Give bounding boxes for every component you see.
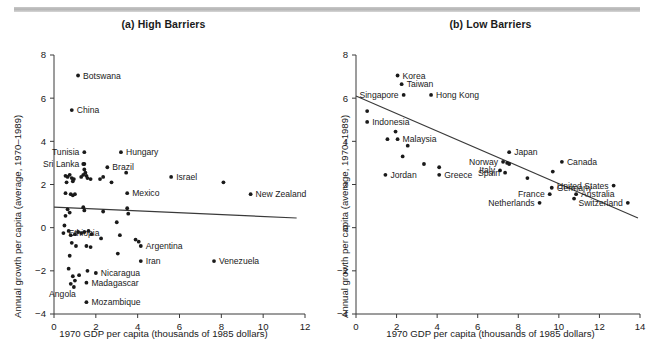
data-point — [70, 241, 74, 245]
x-tick-label: 6 — [475, 321, 480, 332]
data-point — [90, 232, 94, 236]
data-point — [74, 244, 78, 248]
data-point — [81, 162, 85, 166]
data-point — [68, 211, 72, 215]
data-point — [437, 165, 441, 169]
data-point — [69, 282, 73, 286]
data-point — [134, 238, 138, 242]
data-point-label: Jordan — [390, 170, 416, 180]
data-point — [62, 231, 66, 235]
y-tick-label: 6 — [41, 93, 46, 104]
data-point-label: Brazil — [112, 162, 134, 172]
data-point — [71, 274, 75, 278]
data-point — [137, 240, 141, 244]
data-point — [550, 186, 554, 190]
data-point — [73, 232, 77, 236]
data-point-label: Botswana — [83, 71, 121, 81]
data-point-label: Hong Kong — [436, 90, 479, 100]
data-point — [85, 281, 89, 285]
data-point — [365, 109, 369, 113]
data-point-label: Israel — [176, 172, 197, 182]
data-point — [538, 201, 542, 205]
data-point — [81, 205, 85, 209]
data-point — [66, 207, 70, 211]
data-point — [119, 150, 123, 154]
data-point — [76, 74, 80, 78]
data-point — [94, 271, 98, 275]
data-point — [115, 220, 119, 224]
data-point-label: Taiwan — [407, 79, 434, 89]
figure-root: (a) High Barriers Annual growth per capi… — [0, 0, 654, 354]
data-point — [249, 192, 253, 196]
x-tick-label: 6 — [177, 321, 182, 332]
panel-a-plot-area: −4−202468024681012BotswanaChinaTunisiaSr… — [0, 0, 327, 354]
data-point — [126, 212, 130, 216]
data-point-label: Hungary — [126, 147, 159, 157]
data-point — [64, 191, 68, 195]
data-point — [574, 192, 578, 196]
y-tick-label: 8 — [343, 49, 348, 60]
data-point — [437, 173, 441, 177]
y-tick-label: 6 — [343, 93, 348, 104]
data-point — [125, 206, 129, 210]
data-point — [116, 252, 120, 256]
data-point — [365, 120, 369, 124]
data-point — [82, 167, 86, 171]
data-point-label: Canada — [567, 157, 597, 167]
data-point — [99, 237, 103, 241]
data-point — [67, 267, 71, 271]
data-point-label: Greece — [444, 170, 472, 180]
data-point — [222, 180, 226, 184]
data-point-label: Singapore — [359, 90, 398, 100]
data-point — [70, 108, 74, 112]
data-point — [401, 155, 405, 159]
data-point — [105, 165, 109, 169]
data-point — [124, 171, 128, 175]
data-point-label: Angola — [49, 289, 76, 299]
y-tick-label: 2 — [41, 179, 46, 190]
data-point — [386, 137, 390, 141]
data-point-label: Mexico — [132, 188, 159, 198]
data-point — [67, 229, 71, 233]
data-point — [400, 82, 404, 86]
data-point — [82, 150, 86, 154]
data-point-label: Sri Lanka — [43, 159, 80, 169]
y-tick-label: −2 — [337, 265, 348, 276]
data-point — [68, 173, 72, 177]
data-point — [118, 233, 122, 237]
data-point-label: Switzerland — [578, 198, 623, 208]
x-tick-label: 2 — [93, 321, 98, 332]
y-tick-label: 8 — [41, 49, 46, 60]
data-point — [507, 150, 511, 154]
panel-b-plot-area: −4−20246802468101214KoreaTaiwanSingapore… — [327, 0, 654, 354]
data-point — [626, 201, 630, 205]
data-point — [169, 175, 173, 179]
x-tick-label: 4 — [434, 321, 440, 332]
data-point-label: Argentina — [146, 241, 183, 251]
data-point — [73, 279, 77, 283]
data-point — [82, 209, 86, 213]
x-tick-label: 12 — [300, 321, 311, 332]
x-tick-label: 14 — [635, 321, 646, 332]
panel-high-barriers: (a) High Barriers Annual growth per capi… — [0, 0, 327, 354]
data-point — [402, 93, 406, 97]
data-point — [507, 162, 511, 166]
data-point-label: Venezuela — [219, 256, 259, 266]
data-point — [551, 170, 555, 174]
data-point — [212, 259, 216, 263]
regression-line — [54, 207, 297, 218]
x-tick-label: 8 — [516, 321, 521, 332]
data-point — [73, 192, 77, 196]
data-point-label: Mozambique — [91, 297, 140, 307]
data-point-label: Madagascar — [91, 278, 138, 288]
data-point-label: Malaysia — [403, 134, 437, 144]
x-tick-label: 12 — [594, 321, 605, 332]
data-point-label: Netherlands — [488, 198, 534, 208]
data-point-label: Japan — [514, 147, 538, 157]
y-tick-label: −4 — [337, 308, 349, 319]
data-point — [101, 175, 105, 179]
y-tick-label: 0 — [343, 222, 348, 233]
x-tick-label: 0 — [51, 321, 56, 332]
panel-low-barriers: (b) Low Barriers Annual growth per capit… — [327, 0, 654, 354]
data-point — [85, 244, 89, 248]
